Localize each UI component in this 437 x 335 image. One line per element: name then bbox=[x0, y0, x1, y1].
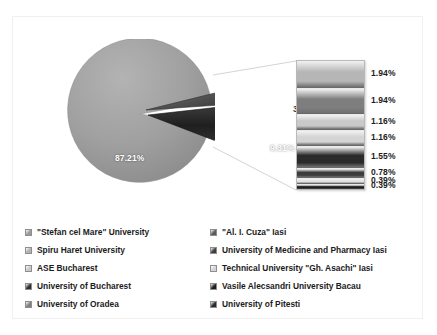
legend-swatch-icon bbox=[210, 301, 217, 308]
legend-label: Vasile Alecsandri University Bacau bbox=[222, 281, 361, 291]
legend-label: University of Bucharest bbox=[37, 281, 131, 291]
legend-swatch-icon bbox=[25, 229, 32, 236]
bar-segment-al-i-cuza-iasi bbox=[297, 130, 364, 146]
legend-label: "Stefan cel Mare" University bbox=[37, 227, 149, 237]
legend-item-university-of-oradea[interactable]: University of Oradea bbox=[25, 295, 210, 313]
legend-swatch-icon bbox=[25, 247, 32, 254]
pie-value-label-stefan-cel-mare: 87.21% bbox=[115, 153, 144, 163]
bar-segment-technical-university-gh-asachi-iasi bbox=[297, 168, 364, 179]
legend-label: University of Medicine and Pharmacy Iasi bbox=[222, 245, 387, 255]
bar-segment-university-of-oradea bbox=[297, 114, 364, 130]
legend-swatch-icon bbox=[25, 301, 32, 308]
legend-label: ASE Bucharest bbox=[37, 263, 98, 273]
legend-swatch-icon bbox=[210, 229, 217, 236]
legend-label: Spiru Haret University bbox=[37, 245, 125, 255]
bar-value-label-al-i-cuza-iasi: 1.16% bbox=[371, 132, 396, 142]
legend-item-spiru-haret-university[interactable]: Spiru Haret University bbox=[25, 241, 210, 259]
legend-item-ase-bucharest[interactable]: ASE Bucharest bbox=[25, 259, 210, 277]
bar-value-label-university-of-bucharest: 1.94% bbox=[371, 95, 396, 105]
chart-legend: "Stefan cel Mare" UniversitySpiru Haret … bbox=[13, 213, 424, 319]
legend-item-technical-university-gh-asachi-iasi[interactable]: Technical University "Gh. Asachi" Iasi bbox=[210, 259, 424, 277]
legend-swatch-icon bbox=[210, 265, 217, 272]
bar-value-label-university-of-pitesti: 0.39% bbox=[371, 180, 396, 190]
bar-segment-university-of-medicine-and-pharmacy-iasi bbox=[297, 146, 364, 167]
legend-label: Technical University "Gh. Asachi" Iasi bbox=[222, 263, 373, 273]
secondary-stacked-bar bbox=[296, 60, 365, 190]
legend-column-left: "Stefan cel Mare" UniversitySpiru Haret … bbox=[25, 223, 210, 313]
secondary-bar-labels: 1.94%1.94%1.16%1.16%1.55%0.78%0.39%0.39% bbox=[371, 60, 423, 190]
legend-swatch-icon bbox=[210, 247, 217, 254]
legend-label: University of Oradea bbox=[37, 299, 119, 309]
bar-segment-ase-bucharest bbox=[297, 61, 364, 88]
primary-pie: 87.21% 3.49% 9.31% bbox=[65, 39, 215, 189]
legend-label: University of Pitesti bbox=[222, 299, 300, 309]
legend-item-stefan-cel-mare-university[interactable]: "Stefan cel Mare" University bbox=[25, 223, 210, 241]
legend-swatch-icon bbox=[25, 283, 32, 290]
bar-value-label-university-of-oradea: 1.16% bbox=[371, 116, 396, 126]
legend-item-al-i-cuza-iasi[interactable]: "Al. I. Cuza" Iasi bbox=[210, 223, 424, 241]
legend-item-vasile-alecsandri-university-bacau[interactable]: Vasile Alecsandri University Bacau bbox=[210, 277, 424, 295]
legend-swatch-icon bbox=[210, 283, 217, 290]
pie-value-label-other: 9.31% bbox=[270, 143, 295, 153]
plot-area: 87.21% 3.49% 9.31% 1.94%1.94%1.16%1.16%1… bbox=[13, 17, 424, 213]
bar-value-label-ase-bucharest: 1.94% bbox=[371, 68, 396, 78]
legend-column-right: "Al. I. Cuza" IasiUniversity of Medicine… bbox=[210, 223, 424, 313]
bar-segment-university-of-bucharest bbox=[297, 88, 364, 115]
legend-item-university-of-bucharest[interactable]: University of Bucharest bbox=[25, 277, 210, 295]
bar-value-label-university-of-medicine-and-pharmacy-iasi: 1.55% bbox=[371, 151, 396, 161]
bar-segment-university-of-pitesti bbox=[297, 184, 364, 189]
legend-label: "Al. I. Cuza" Iasi bbox=[222, 227, 286, 237]
chart-frame: 87.21% 3.49% 9.31% 1.94%1.94%1.16%1.16%1… bbox=[12, 16, 423, 319]
legend-item-university-of-medicine-and-pharmacy-iasi[interactable]: University of Medicine and Pharmacy Iasi bbox=[210, 241, 424, 259]
legend-item-university-of-pitesti[interactable]: University of Pitesti bbox=[210, 295, 424, 313]
legend-swatch-icon bbox=[25, 265, 32, 272]
